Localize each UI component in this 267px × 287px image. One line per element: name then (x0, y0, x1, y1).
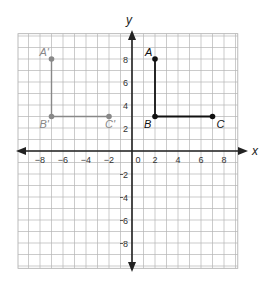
y-axis-label: y (125, 13, 133, 27)
point-A-prime (49, 56, 55, 62)
x-tick-label: −2 (104, 155, 114, 165)
y-tick-label: 4 (123, 101, 128, 111)
x-tick-label: 2 (152, 155, 157, 165)
y-axis-up-arrow-icon (128, 30, 136, 40)
point-label: C' (105, 118, 116, 130)
x-tick-label: 0 (135, 155, 140, 165)
y-tick-label: 2 (123, 170, 128, 180)
point-label: B (144, 118, 151, 130)
y-tick-label: 4 (123, 193, 128, 203)
point-B (152, 114, 158, 120)
point-B-prime (49, 114, 55, 120)
axes: x y (16, 13, 259, 272)
image-figure-path (52, 59, 110, 117)
y-tick-label: 6 (123, 78, 128, 88)
x-axis-left-arrow-icon (16, 147, 26, 155)
x-tick-label: −4 (81, 155, 91, 165)
point-label: B' (40, 118, 50, 130)
y-tick-label: 8 (123, 55, 128, 65)
y-tick-label: 8 (123, 239, 128, 249)
y-tick-label: 2 (123, 124, 128, 134)
original-figure-path (155, 59, 213, 117)
y-tick-label: 6 (123, 216, 128, 226)
y-axis-down-arrow-icon (128, 262, 136, 272)
x-axis-right-arrow-icon (238, 147, 248, 155)
point-label: A (144, 46, 152, 58)
x-axis-label: x (251, 144, 259, 158)
coordinate-plane: x y −8−6−4−20246824682468 A'B'C'ABC (0, 0, 267, 287)
point-label: C (217, 118, 225, 130)
point-label: A' (39, 46, 50, 58)
x-tick-label: −8 (35, 155, 45, 165)
x-tick-label: 4 (175, 155, 180, 165)
x-tick-label: 8 (221, 155, 226, 165)
point-A (152, 56, 158, 62)
x-tick-label: −6 (58, 155, 68, 165)
x-tick-label: 6 (198, 155, 203, 165)
point-C (210, 114, 216, 120)
